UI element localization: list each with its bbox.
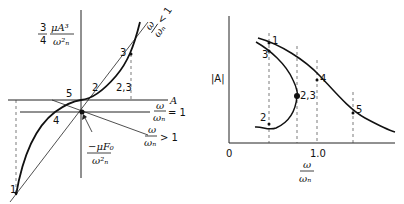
svg-text:−μF₀: −μF₀ xyxy=(88,141,114,152)
right-point-label-23: 2,3 xyxy=(300,90,316,101)
left-point-label-1: 1 xyxy=(10,184,16,195)
x-tick-1: 1.0 xyxy=(310,148,326,159)
svg-text:ω²ₙ: ω²ₙ xyxy=(92,155,108,166)
right-point-label-4: 4 xyxy=(320,73,326,84)
right-point-4 xyxy=(316,79,319,82)
right-point-label-3: 3 xyxy=(262,49,268,60)
svg-text:ω: ω xyxy=(148,124,156,135)
point-3 xyxy=(130,53,133,56)
y-label-num: μA³ xyxy=(51,22,69,33)
svg-text:ω: ω xyxy=(303,159,311,170)
label-ratio-greater-than-one: ω ωₙ > 1 xyxy=(144,124,178,148)
svg-text:ωₙ: ωₙ xyxy=(153,112,165,123)
left-point-label-23: 2,3 xyxy=(116,82,132,93)
left-point-label-4: 4 xyxy=(53,115,59,126)
svg-text:= 1: = 1 xyxy=(168,107,186,118)
right-point-label-5: 5 xyxy=(356,104,362,115)
x-tick-0: 0 xyxy=(226,148,232,159)
svg-text:> 1: > 1 xyxy=(160,132,178,143)
right-point-label-2: 2 xyxy=(260,112,266,123)
svg-text:ωₙ: ωₙ xyxy=(144,137,156,148)
figure: 3 4 μA³ ω²ₙ A ω ωₙ < 1 ω ωₙ = 1 ω ωₙ > 1 xyxy=(0,0,404,204)
svg-text:ω: ω xyxy=(156,100,164,111)
upper-response-curve xyxy=(258,38,395,132)
left-point-label-5: 5 xyxy=(66,88,72,99)
right-point-1 xyxy=(268,42,271,45)
intercept-arrow xyxy=(84,116,92,132)
label-ratio-less-than-one: ω ωₙ < 1 xyxy=(142,1,178,39)
a-axis-label: A xyxy=(169,95,177,106)
label-intercept: −μF₀ ω²ₙ xyxy=(87,141,114,166)
svg-text:ωₙ: ωₙ xyxy=(299,173,311,184)
right-y-axis-label: |A| xyxy=(211,73,225,85)
right-point-label-1: 1 xyxy=(272,35,278,46)
arrowhead-icon xyxy=(82,114,87,120)
left-point-label-2: 2 xyxy=(92,82,98,93)
left-diagram: 3 4 μA³ ω²ₙ A ω ωₙ < 1 ω ωₙ = 1 ω ωₙ > 1 xyxy=(8,1,186,202)
right-x-axis-label: ω ωₙ xyxy=(299,159,314,184)
svg-text:< 1: < 1 xyxy=(155,5,174,26)
right-point-2 xyxy=(268,123,271,126)
y-label-coef-den: 4 xyxy=(40,35,46,46)
point-intercept xyxy=(80,110,85,115)
y-label-den: ω²ₙ xyxy=(53,36,69,47)
right-diagram: |A| 1 3 2,3 4 2 5 0 1.0 ω ωₙ xyxy=(211,16,395,184)
right-point-5 xyxy=(352,112,355,115)
left-point-label-3: 3 xyxy=(120,47,126,58)
y-label-coef-num: 3 xyxy=(40,22,46,33)
